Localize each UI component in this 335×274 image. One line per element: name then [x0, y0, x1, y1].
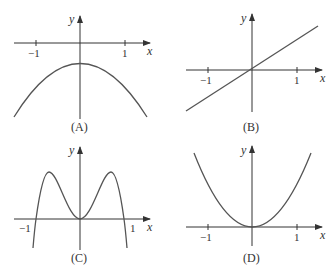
panel-b: −1 1 x y (B): [186, 11, 326, 134]
tick-label-neg: −1: [200, 74, 212, 86]
tick-label-pos: 1: [294, 231, 300, 243]
tick-label-pos: 1: [130, 222, 136, 234]
panel-c: −1 1 x y (C): [14, 143, 153, 265]
tick-label-pos: 1: [294, 74, 300, 86]
tick-label-neg: −1: [200, 231, 212, 243]
x-axis-label: x: [319, 228, 326, 242]
x-axis-label: x: [319, 71, 326, 85]
y-axis-label: y: [240, 143, 247, 157]
x-axis-label: x: [146, 220, 153, 234]
x-axis-label: x: [146, 44, 153, 58]
panel-caption: (B): [243, 120, 259, 134]
panel-caption: (C): [71, 251, 87, 265]
tick-label-neg: −1: [19, 222, 31, 234]
y-axis-label: y: [68, 12, 75, 26]
tick-label-pos: 1: [122, 47, 128, 59]
panel-d: −1 1 x y (D): [186, 143, 326, 265]
panel-caption: (A): [71, 120, 88, 134]
y-axis-label: y: [240, 11, 247, 25]
panel-a: −1 1 x y (A): [14, 12, 153, 134]
tick-label-neg: −1: [28, 47, 40, 59]
figure: −1 1 x y (A) −1 1 x y (B) −1 1 x y (C) −…: [0, 0, 335, 274]
panel-caption: (D): [243, 251, 260, 265]
y-axis-label: y: [68, 143, 75, 157]
